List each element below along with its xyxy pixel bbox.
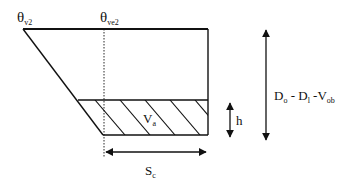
va-base: V bbox=[143, 111, 152, 126]
depth-ob-subscript: ob bbox=[327, 96, 335, 105]
label-sc: Sc bbox=[145, 164, 156, 180]
theta-ve2-subscript: ve2 bbox=[107, 18, 119, 27]
theta-v2-subscript: v2 bbox=[24, 18, 32, 27]
depth-minus: - bbox=[287, 88, 298, 103]
h-text: h bbox=[236, 113, 243, 128]
label-va: Va bbox=[143, 112, 156, 128]
depth-d: D bbox=[274, 88, 283, 103]
depth-v: V bbox=[317, 88, 326, 103]
label-h: h bbox=[236, 114, 243, 127]
depth-d2: D bbox=[298, 88, 307, 103]
slanted-edge bbox=[23, 29, 103, 135]
sc-subscript: c bbox=[152, 171, 156, 180]
va-subscript: a bbox=[152, 119, 156, 128]
label-depth: Do - Dl -Vob bbox=[274, 89, 335, 105]
label-theta-v2: θv2 bbox=[17, 10, 32, 27]
trapezoid-shape bbox=[23, 29, 208, 135]
label-theta-ve2: θve2 bbox=[100, 10, 119, 27]
